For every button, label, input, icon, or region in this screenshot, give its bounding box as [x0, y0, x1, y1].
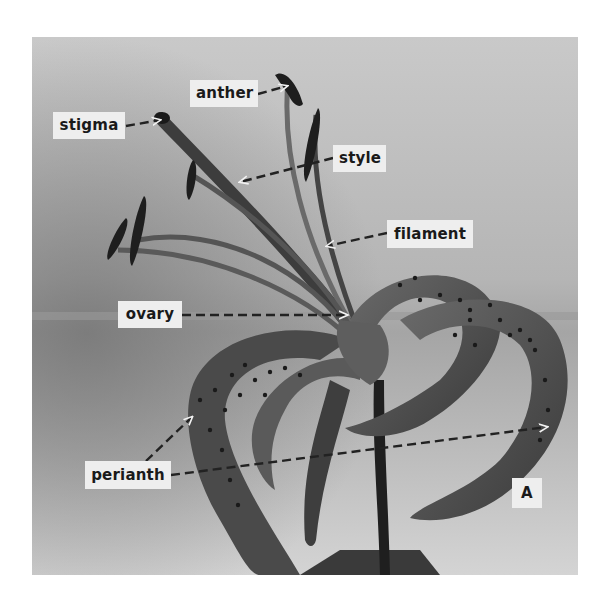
- label-anther: anther: [190, 80, 258, 107]
- label-perianth: perianth: [85, 461, 171, 489]
- label-ovary: ovary: [118, 301, 182, 328]
- panel-letter: A: [512, 478, 542, 508]
- label-filament: filament: [387, 220, 473, 248]
- label-style: style: [333, 145, 386, 172]
- label-stigma: stigma: [53, 112, 125, 139]
